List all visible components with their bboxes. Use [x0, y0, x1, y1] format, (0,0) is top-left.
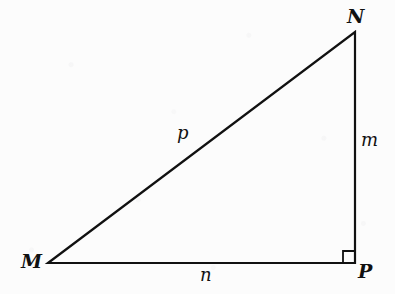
geometry-figure: M N P p m n — [0, 0, 395, 294]
side-label-m: m — [361, 131, 378, 149]
side-label-n: n — [200, 266, 212, 284]
vertex-label-N: N — [347, 7, 364, 26]
right-angle-marker-icon — [343, 251, 355, 263]
vertex-label-P: P — [358, 262, 372, 281]
side-label-p: p — [177, 124, 189, 142]
triangle-mnp — [48, 32, 355, 263]
vertex-label-M: M — [21, 252, 42, 271]
triangle-drawing — [0, 0, 395, 294]
